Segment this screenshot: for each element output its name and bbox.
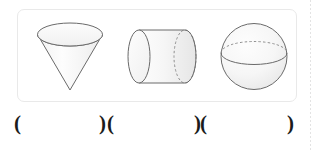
figure-sphere <box>216 10 292 103</box>
open-paren-2: ( <box>107 110 114 136</box>
cylinder-near-end-face <box>128 30 150 83</box>
figure-cone <box>24 10 116 103</box>
answer-parentheses-row: ( ) ( ) ( ) <box>0 110 318 142</box>
open-paren-3: ( <box>200 110 207 136</box>
cone-drawing <box>24 10 116 103</box>
close-paren-1: ) <box>99 110 106 136</box>
open-paren-1: ( <box>14 110 21 136</box>
figure-panel <box>17 9 297 102</box>
answer-blank-cylinder[interactable]: ( ) <box>107 110 201 142</box>
figure-cylinder <box>122 10 202 103</box>
answer-blank-sphere[interactable]: ( ) <box>200 110 294 142</box>
sphere-drawing <box>216 10 292 103</box>
sphere-outline <box>221 24 287 90</box>
cylinder-drawing <box>122 10 202 103</box>
close-paren-3: ) <box>287 110 294 136</box>
answer-blank-cone[interactable]: ( ) <box>14 110 106 142</box>
cone-top-face <box>38 23 103 46</box>
